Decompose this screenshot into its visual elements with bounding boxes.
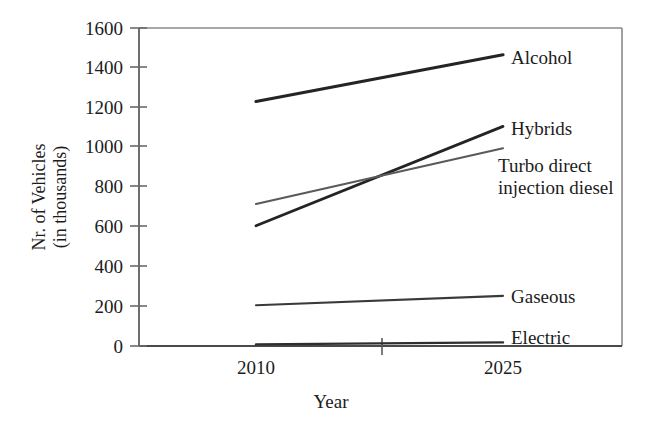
y-tick-label: 1400 — [55, 58, 123, 77]
series-label-line2: injection diesel — [498, 177, 614, 199]
series-line-electric — [256, 342, 503, 344]
y-axis-title: Nr. of Vehicles (in thousands) — [29, 87, 71, 307]
series-label-electric: Electric — [511, 327, 570, 349]
series-line-gaseous — [256, 296, 503, 305]
series-label-hybrids: Hybrids — [511, 118, 572, 140]
x-axis-title: Year — [281, 392, 381, 411]
series-label-gaseous: Gaseous — [511, 286, 575, 308]
chart-figure: 1600 1400 1200 1000 800 600 400 200 0 20… — [0, 0, 652, 423]
y-tick-label: 1600 — [55, 19, 123, 38]
y-axis-title-line2: (in thousands) — [50, 87, 71, 307]
series-line-alcohol — [256, 55, 503, 102]
series-line-turbo-direct-injection-diesel — [256, 148, 503, 204]
series-label-alcohol: Alcohol — [511, 47, 572, 69]
y-axis-title-line1: Nr. of Vehicles — [29, 87, 50, 307]
y-tick-label: 0 — [55, 337, 123, 356]
x-tick-label: 2010 — [206, 358, 306, 377]
series-label-line1: Turbo direct — [498, 155, 614, 177]
series-label-turbo-direct-injection-diesel: Turbo direct injection diesel — [498, 155, 614, 199]
x-tick-label: 2025 — [453, 358, 553, 377]
